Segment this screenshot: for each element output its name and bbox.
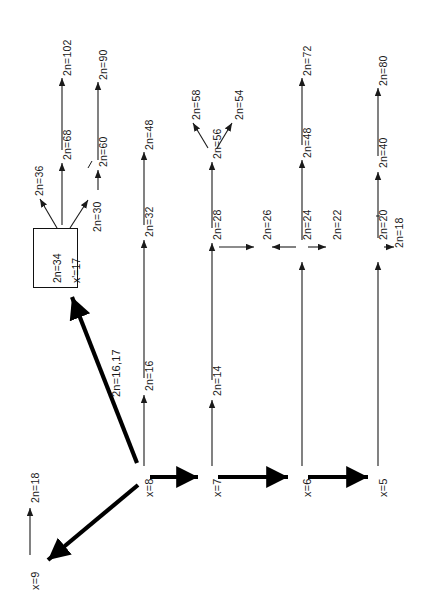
count-label-2n20: 2n=20 [378, 210, 389, 241]
count-label-2n24: 2n=24 [302, 210, 313, 241]
node-label-x7[interactable]: x=7 [212, 478, 223, 497]
count-label-2n54: 2n=54 [234, 90, 245, 121]
count-label-2n16: 2n=16 [144, 361, 155, 392]
count-label-2n58: 2n=58 [191, 90, 202, 121]
box-label-2n34: 2n=34 [52, 254, 63, 284]
highlight-node-box[interactable]: 2n=34 x'=17 [33, 228, 78, 288]
diagram-lines [0, 0, 424, 594]
count-label-2n68: 2n=68 [62, 130, 73, 161]
count-label-2n56: 2n=56 [212, 129, 223, 160]
edge-label-2n16-17: 2n=16,17 [111, 349, 122, 397]
count-label-2n22: 2n=22 [332, 210, 343, 241]
count-label-2n30: 2n=30 [92, 202, 103, 233]
count-label-2n32: 2n=32 [144, 207, 155, 238]
count-label-2n90: 2n=90 [98, 50, 109, 81]
node-label-x6[interactable]: x=6 [302, 478, 313, 497]
count-label-2n48-x6: 2n=48 [302, 128, 313, 159]
count-label-2n72: 2n=72 [302, 46, 313, 77]
count-label-2n48-x8: 2n=48 [144, 120, 155, 151]
count-label-2n26: 2n=26 [262, 210, 273, 241]
count-label-2n40: 2n=40 [378, 138, 389, 169]
count-label-2n36: 2n=36 [34, 166, 45, 197]
count-label-2n18-x5: 2n=18 [394, 218, 405, 249]
node-label-x8[interactable]: x=8 [144, 478, 155, 497]
count-label-2n14: 2n=14 [212, 366, 223, 397]
node-label-x5[interactable]: x=5 [378, 478, 389, 497]
count-label-2n80: 2n=80 [378, 56, 389, 87]
count-label-2n102: 2n=102 [62, 39, 73, 76]
count-label-2n28: 2n=28 [212, 210, 223, 241]
node-label-x9[interactable]: x=9 [30, 571, 41, 590]
count-label-2n60: 2n=60 [98, 137, 109, 168]
count-label-2n18-x9: 2n=18 [30, 473, 41, 504]
box-label-x17: x'=17 [71, 258, 82, 283]
diagram-canvas: 2n=34 x'=17 x=9 x=8 x=7 x=6 x=5 2n=18 2n… [0, 0, 424, 594]
